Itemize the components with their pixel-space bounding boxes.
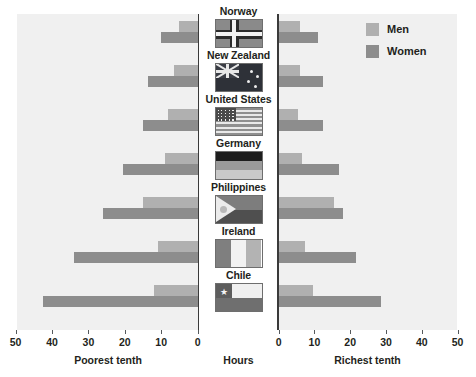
bar-poorest-women-philippines (103, 208, 198, 219)
bar-poorest-women-ireland (74, 252, 198, 263)
right-30-tick (386, 330, 387, 334)
right-30-tick-label: 30 (374, 336, 398, 348)
bar-poorest-men-ireland (158, 241, 198, 252)
country-label: Chile (199, 269, 278, 281)
left-40-tick-label: 40 (40, 336, 64, 348)
germany-flag (215, 151, 263, 180)
left-30-tick (88, 330, 89, 334)
right-20-tick (350, 330, 351, 334)
country-row-united-states: United States (199, 93, 278, 136)
country-row-philippines: Philippines (199, 181, 278, 224)
country-row-ireland: Ireland (199, 225, 278, 268)
bar-poorest-men-philippines (143, 197, 198, 208)
country-row-new-zealand: New Zealand (199, 49, 278, 92)
right-10-tick-label: 10 (302, 336, 326, 348)
bar-richest-women-united-states (279, 120, 324, 131)
united-states-flag (215, 107, 263, 136)
ireland-flag (215, 239, 263, 268)
norway-flag (215, 19, 263, 48)
legend-swatch-women (366, 45, 379, 58)
bar-poorest-men-norway (179, 21, 197, 32)
bar-poorest-women-germany (123, 164, 198, 175)
left-20-tick-label: 20 (113, 336, 137, 348)
right-0-tick-label: 0 (267, 336, 291, 348)
bar-richest-men-ireland (279, 241, 306, 252)
country-row-germany: Germany (199, 137, 278, 180)
left-0-tick (198, 330, 199, 334)
bar-richest-men-germany (279, 153, 302, 164)
left-0-tick-label: 0 (186, 336, 210, 348)
legend-label: Men (387, 23, 409, 35)
legend-item-men: Men (366, 18, 427, 40)
country-label: Philippines (199, 181, 278, 193)
left-50-tick (16, 330, 17, 334)
axis-title-richest-tenth: Richest tenth (278, 354, 457, 366)
chart-legend: MenWomen (366, 18, 427, 62)
country-label: Ireland (199, 225, 278, 237)
right-20-tick-label: 20 (338, 336, 362, 348)
new-zealand-flag (215, 63, 263, 92)
country-label: New Zealand (199, 49, 278, 61)
left-10-tick (161, 330, 162, 334)
bar-richest-men-philippines (279, 197, 334, 208)
bar-poorest-men-germany (165, 153, 198, 164)
left-40-tick (52, 330, 53, 334)
bar-richest-men-norway (279, 21, 300, 32)
left-30-tick-label: 30 (76, 336, 100, 348)
legend-swatch-men (366, 23, 379, 36)
country-label: Norway (199, 5, 278, 17)
right-0-tick (279, 330, 280, 334)
left-10-tick-label: 10 (149, 336, 173, 348)
bar-richest-women-germany (279, 164, 340, 175)
bar-poorest-women-new-zealand (148, 76, 197, 87)
bar-poorest-men-united-states (168, 109, 197, 120)
country-label: Germany (199, 137, 278, 149)
butterfly-bar-chart: NorwayNew ZealandUnited StatesGermanyPhi… (0, 0, 476, 377)
right-50-tick (458, 330, 459, 334)
bar-richest-women-new-zealand (279, 76, 324, 87)
country-column: NorwayNew ZealandUnited StatesGermanyPhi… (199, 0, 278, 331)
bar-richest-women-chile (279, 296, 381, 307)
axis-title-poorest-tenth: Poorest tenth (17, 354, 199, 366)
bar-poorest-women-norway (161, 32, 197, 43)
country-row-norway: Norway (199, 5, 278, 48)
bar-richest-women-philippines (279, 208, 343, 219)
right-40-tick (422, 330, 423, 334)
legend-item-women: Women (366, 40, 427, 62)
right-50-tick-label: 50 (446, 336, 470, 348)
bar-richest-women-norway (279, 32, 318, 43)
bar-poorest-women-united-states (143, 120, 198, 131)
country-row-chile: Chile★ (199, 269, 278, 312)
bar-poorest-women-chile (43, 296, 198, 307)
legend-label: Women (387, 45, 427, 57)
country-label: United States (199, 93, 278, 105)
chile-flag: ★ (215, 283, 263, 312)
left-20-tick (125, 330, 126, 334)
left-50-tick-label: 50 (4, 336, 28, 348)
bar-poorest-men-new-zealand (174, 65, 198, 76)
bar-richest-men-chile (279, 285, 313, 296)
philippines-flag (215, 195, 263, 224)
bar-richest-men-united-states (279, 109, 299, 120)
axis-title-hours: Hours (199, 354, 278, 366)
bar-poorest-men-chile (154, 285, 198, 296)
bar-richest-women-ireland (279, 252, 356, 263)
bar-richest-men-new-zealand (279, 65, 300, 76)
right-40-tick-label: 40 (410, 336, 434, 348)
right-10-tick (314, 330, 315, 334)
